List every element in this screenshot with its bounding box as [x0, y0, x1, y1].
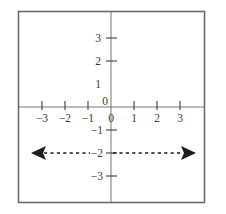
- y-axis-label-2: 2: [95, 55, 101, 67]
- y-axis-label--1: −1: [91, 124, 103, 136]
- x-axis-label-3: 3: [177, 112, 183, 124]
- x-axis-label--2: −2: [59, 112, 71, 124]
- y-axis-label-0: 0: [102, 95, 108, 107]
- y-axis-label--3: −3: [91, 170, 103, 182]
- graph-figure: 3 2 1 0 −1 −2 −3 −3 −2 −1 0 1 2 3: [0, 0, 226, 214]
- y-axis-label-1: 1: [95, 78, 101, 90]
- x-axis-label--1: −1: [82, 112, 94, 124]
- x-axis-label-1: 1: [131, 112, 137, 124]
- y-axis-label-3: 3: [95, 32, 101, 44]
- x-axis-label-2: 2: [154, 112, 160, 124]
- y-axis-label--2: −2: [91, 147, 103, 159]
- coordinate-plane-graph: 3 2 1 0 −1 −2 −3 −3 −2 −1 0 1 2 3: [0, 0, 226, 214]
- x-axis-label-0: 0: [108, 112, 114, 124]
- x-axis-label--3: −3: [36, 112, 48, 124]
